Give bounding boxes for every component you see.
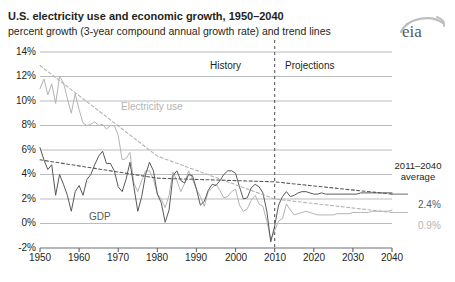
average-header: 2011–2040 average xyxy=(385,160,451,182)
y-tick-label: 14% xyxy=(2,47,36,57)
series-line-electricity-use-trend xyxy=(40,65,392,212)
x-tick-label: 1960 xyxy=(59,252,99,264)
x-tick-label: 2020 xyxy=(294,252,334,264)
y-tick-label: 8% xyxy=(2,120,36,130)
y-axis-labels: 14% 12% 10% 8% 6% 4% 2% 0% -2% xyxy=(0,0,36,282)
gdp-average-value: 2.4% xyxy=(418,199,455,210)
x-tick-label: 2000 xyxy=(216,252,256,264)
y-tick-label: 10% xyxy=(2,96,36,106)
y-tick-label: 4% xyxy=(2,169,36,179)
y-tick-label: 6% xyxy=(2,145,36,155)
series-line-gdp xyxy=(40,148,392,242)
gdp-series-label: GDP xyxy=(89,211,111,222)
x-tick-label: 2040 xyxy=(372,252,412,264)
x-tick-label: 1970 xyxy=(98,252,138,264)
x-tick-label: 1990 xyxy=(176,252,216,264)
electricity-series-label: Electricity use xyxy=(121,101,183,112)
svg-text:eia: eia xyxy=(402,22,422,41)
chart-title: U.S. electricity use and economic growth… xyxy=(8,10,284,22)
x-tick-label: 1980 xyxy=(137,252,177,264)
average-header-line1: 2011–2040 xyxy=(385,160,451,171)
x-axis-labels: 1950 1960 1970 1980 1990 2000 2010 2020 … xyxy=(0,252,455,268)
eia-logo: eia xyxy=(397,12,449,42)
electricity-average-value: 0.9% xyxy=(418,220,455,231)
chart-subtitle: percent growth (3-year compound annual g… xyxy=(8,25,331,37)
series-line-gdp-trend xyxy=(40,160,392,194)
x-tick-label: 2030 xyxy=(333,252,373,264)
chart-root: U.S. electricity use and economic growth… xyxy=(0,0,455,282)
average-header-line2: average xyxy=(385,171,451,182)
history-label: History xyxy=(210,60,241,71)
x-tick-label: 1950 xyxy=(20,252,60,264)
y-tick-label: 12% xyxy=(2,71,36,81)
y-tick-label: 0% xyxy=(2,218,36,228)
y-tick-label: 2% xyxy=(2,194,36,204)
x-tick-label: 2010 xyxy=(255,252,295,264)
projections-label: Projections xyxy=(285,60,334,71)
